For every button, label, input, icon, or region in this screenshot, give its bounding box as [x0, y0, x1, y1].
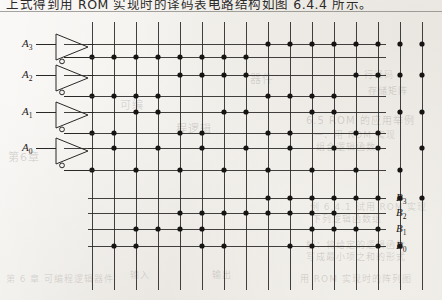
inverter-bubble-inv-A2 — [60, 90, 65, 95]
connection-dot-B3-col9 — [265, 195, 270, 200]
input-label-A1: A1 — [22, 105, 32, 120]
connection-dot-A1-col15 — [397, 109, 402, 114]
input-label-A0-letter: A — [22, 141, 29, 153]
input-label-A3-subscript: 3 — [29, 43, 33, 52]
connection-dot-A0-col10 — [287, 145, 292, 150]
inverter-bubble-inv-A3 — [60, 59, 65, 64]
connection-dot-A0bar-col7 — [221, 167, 226, 172]
connection-dot-A2-col6 — [199, 72, 204, 77]
connection-dot-A1-col12 — [331, 109, 336, 114]
connection-dot-A0-col12 — [331, 145, 336, 150]
connection-dot-B0-col3 — [133, 243, 138, 248]
connection-dot-B0-col11 — [309, 243, 314, 248]
connection-dot-A0-col14 — [375, 145, 380, 150]
connection-dot-B1-col5 — [177, 226, 182, 231]
connection-dot-B2-col11 — [309, 210, 314, 215]
connection-dot-A2bar-col10 — [287, 93, 292, 98]
connection-dot-A3-col9 — [265, 41, 270, 46]
connection-dot-B0-col6 — [199, 243, 204, 248]
connection-dot-A3bar-col6 — [199, 54, 204, 59]
connection-dot-A3-col13 — [353, 41, 358, 46]
inverter-bubble-inv-A1 — [60, 127, 65, 132]
output-label-B0: B0 — [396, 239, 406, 254]
connection-dot-A1bar-col2 — [111, 130, 116, 135]
connection-dot-A0-col6 — [199, 145, 204, 150]
connection-dot-B0-col7 — [221, 243, 226, 248]
inverter-triangle-inv-A3 — [56, 34, 88, 60]
connection-dot-A2-col7 — [221, 72, 226, 77]
connection-dot-A1-col3 — [133, 109, 138, 114]
connection-dot-B2-col12 — [331, 210, 336, 215]
connection-dot-A2-col8 — [243, 72, 248, 77]
connection-dot-A1bar-col5 — [177, 130, 182, 135]
connection-dot-A3-col10 — [287, 41, 292, 46]
connection-dot-A3-col12 — [331, 41, 336, 46]
connection-dot-A3-col14 — [375, 41, 380, 46]
inverter-triangle-inv-A2 — [56, 65, 88, 91]
connection-dot-A0-col4 — [155, 145, 160, 150]
connection-dot-A1bar-col10 — [287, 130, 292, 135]
input-label-A0-subscript: 0 — [29, 147, 33, 156]
connection-dot-A0-col2 — [111, 145, 116, 150]
connection-dot-A1-col11 — [309, 109, 314, 114]
output-label-B0-subscript: 0 — [403, 245, 407, 254]
connection-dot-B0-col10 — [287, 243, 292, 248]
grid-vertical-lines — [92, 22, 422, 290]
connection-dot-A2-col14 — [375, 72, 380, 77]
connection-dot-A2-col5 — [177, 72, 182, 77]
connection-dot-B3-col16 — [419, 195, 424, 200]
connection-dot-B3-col11 — [309, 195, 314, 200]
input-label-A1-letter: A — [22, 105, 29, 117]
output-label-B3: B3 — [396, 191, 406, 206]
inverter-triangle-inv-A0 — [56, 138, 88, 164]
scanned-page: 上式得到用 ROM 实现时的译码表电路结构如图 6.4.4 所示。 第6章可编程… — [0, 0, 442, 300]
input-label-A3: A3 — [22, 37, 32, 52]
connection-dot-A1-col7 — [221, 109, 226, 114]
connection-dot-B1-col6 — [199, 226, 204, 231]
connection-dot-A2bar-col2 — [111, 93, 116, 98]
connection-dot-A1bar-col14 — [375, 130, 380, 135]
connection-dots — [89, 41, 424, 248]
output-label-B1-subscript: 1 — [403, 228, 407, 237]
connection-dot-A1-col8 — [243, 109, 248, 114]
connection-dot-B1-col4 — [155, 226, 160, 231]
connection-dot-A1bar-col6 — [199, 130, 204, 135]
connection-dot-A2bar-col3 — [133, 93, 138, 98]
connection-dot-B2-col10 — [287, 210, 292, 215]
connection-dot-B1-col14 — [375, 226, 380, 231]
connection-dot-B2-col9 — [265, 210, 270, 215]
connection-dot-A2-col13 — [353, 72, 358, 77]
connection-dot-A2bar-col9 — [265, 93, 270, 98]
connection-dot-B3-col13 — [353, 195, 358, 200]
connection-dot-B1-col13 — [353, 226, 358, 231]
connection-dot-A2bar-col11 — [309, 93, 314, 98]
connection-dot-A3-col11 — [309, 41, 314, 46]
connection-dot-B3-col14 — [375, 195, 380, 200]
connection-dot-A2bar-col12 — [331, 93, 336, 98]
connection-dot-A3bar-col8 — [243, 54, 248, 59]
connection-dot-B1-col11 — [309, 226, 314, 231]
inverter-bubble-inv-A0 — [60, 163, 65, 168]
connection-dot-A0bar-col15 — [397, 167, 402, 172]
connection-dot-A0bar-col11 — [309, 167, 314, 172]
connection-dot-A2-col15 — [397, 72, 402, 77]
output-label-B3-letter: B — [396, 191, 403, 203]
connection-dot-B3-col10 — [287, 195, 292, 200]
connection-dot-B2-col6 — [199, 210, 204, 215]
connection-dot-B0-col14 — [375, 243, 380, 248]
input-label-A0: A0 — [22, 141, 32, 156]
connection-dot-B1-col3 — [133, 226, 138, 231]
output-label-B2: B2 — [396, 206, 406, 221]
rom-array-diagram — [0, 0, 442, 300]
connection-dot-A0bar-col5 — [177, 167, 182, 172]
input-label-A2-letter: A — [22, 68, 29, 80]
connection-dot-A3bar-col4 — [155, 54, 160, 59]
connection-dot-A2bar-col4 — [155, 93, 160, 98]
connection-dot-B2-col8 — [243, 210, 248, 215]
output-label-B1: B1 — [396, 222, 406, 237]
connection-dot-B2-col5 — [177, 210, 182, 215]
connection-dot-A0-col8 — [243, 145, 248, 150]
connection-dot-B2-col7 — [221, 210, 226, 215]
connection-dot-A1-col4 — [155, 109, 160, 114]
connection-dot-A0bar-col9 — [265, 167, 270, 172]
